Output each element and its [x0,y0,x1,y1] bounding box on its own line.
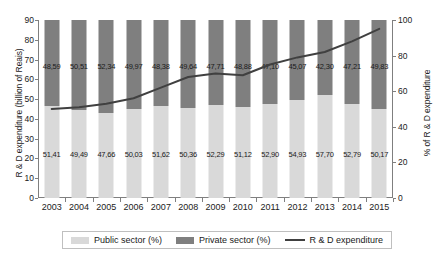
legend-item-private[interactable]: Private sector (%) [176,235,271,245]
y-right-tick-label: 100 [398,15,412,25]
x-tick-mark [175,198,176,202]
y-left-tick-label: 10 [25,173,34,183]
y-right-tick-mark [393,162,396,163]
y-axis-left-title: R & D expenditure (billion of Reais) [14,38,24,188]
x-tick-label: 2003 [42,202,62,212]
x-tick-mark [120,198,121,202]
legend-item-public[interactable]: Public sector (%) [71,235,162,245]
x-tick-label: 2014 [342,202,362,212]
x-tick-mark [65,198,66,202]
x-tick-label: 2008 [178,202,198,212]
private-sector-swatch-icon [176,237,194,244]
x-tick-label: 2013 [315,202,335,212]
x-tick-mark [311,198,312,202]
line-swatch-icon [285,239,305,241]
public-sector-swatch-icon [71,237,89,244]
line-series [38,20,393,198]
y-left-tick-label: 40 [25,114,34,124]
y-right-tick-label: 60 [398,86,407,96]
legend-label-private: Private sector (%) [199,235,271,245]
y-right-tick-mark [393,20,396,21]
x-tick-label: 2007 [151,202,171,212]
y-left-tick-mark [35,198,38,199]
x-tick-label: 2004 [69,202,89,212]
line-path [52,29,380,109]
y-left-tick-label: 90 [25,15,34,25]
x-tick-label: 2006 [124,202,144,212]
y-left-tick-label: 50 [25,94,34,104]
y-left-tick-label: 80 [25,35,34,45]
y-left-tick-label: 70 [25,55,34,65]
x-tick-mark [366,198,367,202]
y-left-tick-label: 0 [29,193,34,203]
x-tick-mark [284,198,285,202]
legend-label-line: R & D expenditure [310,235,384,245]
x-tick-label: 2012 [287,202,307,212]
legend-label-public: Public sector (%) [94,235,162,245]
x-tick-mark [256,198,257,202]
y-right-tick-label: 0 [398,193,403,203]
x-tick-mark [93,198,94,202]
y-right-tick-label: 20 [398,157,407,167]
x-tick-mark [229,198,230,202]
x-tick-mark [147,198,148,202]
legend-item-line[interactable]: R & D expenditure [285,235,384,245]
x-tick-mark [338,198,339,202]
y-left-tick-label: 30 [25,134,34,144]
x-tick-label: 2011 [260,202,279,212]
y-left-tick-label: 60 [25,74,34,84]
y-left-tick-label: 20 [25,153,34,163]
plot-area: 0102030405060708090 020406080100 48,5951… [38,20,393,198]
x-tick-label: 2015 [369,202,389,212]
y-right-tick-mark [393,127,396,128]
y-axis-right-title: % of R & D expenditure [422,38,432,188]
x-tick-mark [393,198,394,202]
chart-container: R & D expenditure (billion of Reais) % o… [0,0,442,263]
x-tick-label: 2010 [233,202,253,212]
x-tick-label: 2009 [205,202,225,212]
y-right-tick-label: 40 [398,122,407,132]
y-right-tick-label: 80 [398,51,407,61]
x-tick-label: 2005 [96,202,116,212]
x-tick-mark [202,198,203,202]
chart-legend: Public sector (%) Private sector (%) R &… [62,231,392,249]
y-right-tick-mark [393,91,396,92]
y-right-tick-mark [393,56,396,57]
